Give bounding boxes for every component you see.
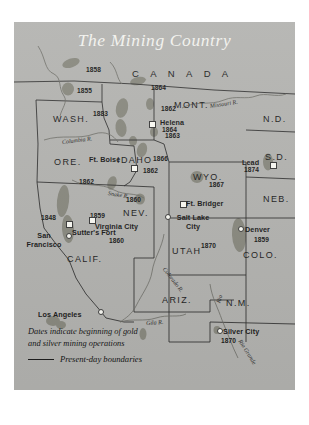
legend-line-1: Dates indicate beginning of gold xyxy=(28,326,258,338)
date-1855: 1855 xyxy=(77,87,92,94)
city-helena-date: 1864 xyxy=(162,126,177,133)
city-ft-boise-marker-icon xyxy=(131,165,138,172)
city-sutters-fort-label: Sutter's Fort xyxy=(72,228,116,237)
region-label-calif: CALIF. xyxy=(67,254,102,264)
date-1862-ore: 1862 xyxy=(79,178,94,185)
region-label-nd: N.D. xyxy=(263,114,287,124)
mining-country-map: The Mining Country C A N A D AWASH.ORE.I… xyxy=(14,22,295,390)
date-1864-north: 1864 xyxy=(151,84,166,91)
date-1859-denver: 1859 xyxy=(254,236,269,243)
region-label-nev: NEV. xyxy=(123,208,149,218)
date-1863: 1863 xyxy=(165,132,180,139)
city-lead-date: 1874 xyxy=(244,166,259,173)
region-label-idaho: IDAHO xyxy=(117,155,153,165)
region-label-sd: S.D. xyxy=(265,152,288,162)
city-los-angeles-label: Los Angeles xyxy=(38,310,82,319)
city-lead-marker-icon xyxy=(270,162,277,169)
date-1870-utah: 1870 xyxy=(201,242,216,249)
date-1867: 1867 xyxy=(209,181,224,188)
date-1862-mont: 1862 xyxy=(161,105,176,112)
river-label-gila-river: Gila R. xyxy=(146,319,164,326)
region-label-ariz: ARIZ. xyxy=(162,295,192,305)
legend-line-2: and silver mining operations xyxy=(28,338,258,350)
region-label-mont: MONT. xyxy=(174,100,209,110)
date-1860-nev: 1860 xyxy=(126,196,141,203)
legend-boundaries: Present-day boundaries xyxy=(28,354,258,364)
city-ft-boise-label: Ft. Boise xyxy=(89,155,120,164)
date-1858: 1858 xyxy=(86,66,101,73)
region-label-neb: NEB. xyxy=(263,194,290,204)
region-label-ore: ORE. xyxy=(54,157,82,167)
city-ft-bridger-label: Ft. Bridger xyxy=(186,199,223,208)
region-label-utah: UTAH xyxy=(172,246,201,256)
region-label-nm: N.M. xyxy=(226,298,251,308)
city-san-francisco-label: San Francisco xyxy=(22,231,66,249)
legend-boundaries-label: Present-day boundaries xyxy=(60,354,142,364)
city-sutters-fort-marker-icon xyxy=(66,221,73,228)
region-label-wash: WASH. xyxy=(53,114,89,124)
page-title: The Mining Country xyxy=(14,30,295,51)
boundary-line-icon xyxy=(28,359,54,360)
date-1860-sutter: 1860 xyxy=(109,237,124,244)
city-helena-marker-icon xyxy=(149,121,156,128)
city-salt-lake-city-label: Salt Lake City xyxy=(171,213,215,231)
date-1866: 1866 xyxy=(153,155,168,162)
city-denver-label: Denver xyxy=(245,225,270,234)
date-1848: 1848 xyxy=(41,214,56,221)
date-1883: 1883 xyxy=(93,110,108,117)
region-label-colo: COLO. xyxy=(243,250,278,260)
region-label-canada: C A N A D A xyxy=(132,68,233,79)
map-page: The Mining Country C A N A D AWASH.ORE.I… xyxy=(0,0,309,425)
date-1862-idaho: 1862 xyxy=(143,167,158,174)
map-legend: Dates indicate beginning of gold and sil… xyxy=(28,326,258,364)
